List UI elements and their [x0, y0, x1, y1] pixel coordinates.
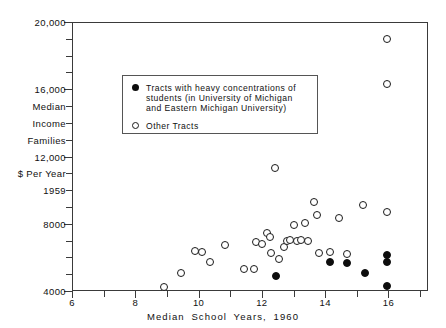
data-point-open	[221, 241, 229, 249]
data-point-filled	[343, 259, 351, 267]
x-axis-tick-label: 16	[368, 297, 408, 308]
data-point-open	[383, 35, 391, 43]
legend-line: students (in University of Michigan	[146, 93, 309, 103]
data-point-open	[290, 221, 298, 229]
plot-area	[72, 22, 428, 291]
data-point-filled	[383, 282, 391, 290]
y-axis-minor-tick	[66, 39, 72, 40]
data-point-open	[250, 265, 258, 273]
legend-entry-student-tracts: Tracts with heavy concentrations of stud…	[132, 83, 309, 114]
x-axis-tick-label: 14	[305, 297, 345, 308]
x-axis-tick-label: 6	[52, 297, 92, 308]
open-circle-icon	[132, 122, 139, 129]
legend-entry-label: Tracts with heavy concentrations of stud…	[146, 83, 309, 114]
legend-line: Tracts with heavy concentrations of	[146, 83, 309, 93]
x-axis-title: Median School Years, 1960	[0, 311, 446, 322]
y-axis-tick-label: 16,000	[0, 84, 66, 95]
y-axis-minor-tick	[66, 274, 72, 275]
data-point-open	[326, 248, 334, 256]
chart-legend: Tracts with heavy concentrations of stud…	[122, 75, 318, 134]
legend-line: and Eastern Michigan University)	[146, 103, 309, 113]
y-axis-title-word: Income	[0, 117, 66, 128]
legend-entry-other-tracts: Other Tracts	[132, 121, 309, 131]
y-axis-title-word: Median	[0, 101, 66, 112]
data-point-open	[258, 240, 266, 248]
y-axis-minor-tick	[66, 241, 72, 242]
data-point-open	[275, 255, 283, 263]
y-axis-minor-tick	[66, 140, 72, 141]
y-axis-minor-tick	[66, 123, 72, 124]
legend-line: Other Tracts	[146, 121, 309, 131]
y-axis-minor-tick	[66, 207, 72, 208]
y-axis-title-word: 1959	[0, 185, 66, 196]
data-point-filled	[272, 272, 280, 280]
data-point-filled	[361, 269, 369, 277]
y-axis-title-word: Families	[0, 134, 66, 145]
data-point-open	[266, 233, 274, 241]
x-axis-minor-tick	[420, 291, 421, 297]
y-axis-tick-label: 20,000	[0, 17, 66, 28]
data-point-filled	[383, 258, 391, 266]
data-point-open	[310, 198, 318, 206]
y-axis-title-word: $ Per Year	[0, 168, 66, 179]
y-axis-minor-tick	[66, 56, 72, 57]
data-point-filled	[326, 258, 334, 266]
data-point-open	[177, 269, 185, 277]
y-axis-tick-label: 4000	[0, 286, 66, 297]
chart-screenshot: 4000800012,00016,00020,000MedianIncomeFa…	[0, 0, 446, 328]
data-point-open	[160, 283, 168, 291]
data-point-open	[383, 80, 391, 88]
data-point-open	[359, 201, 367, 209]
data-point-open	[315, 249, 323, 257]
y-axis-minor-tick	[66, 106, 72, 107]
y-axis-tick-label: 12,000	[0, 151, 66, 162]
y-axis-tick-label: 8000	[0, 218, 66, 229]
x-axis-tick-label: 8	[115, 297, 155, 308]
y-axis-minor-tick	[66, 173, 72, 174]
x-axis-minor-tick	[167, 291, 168, 297]
data-point-open	[383, 208, 391, 216]
legend-entry-label: Other Tracts	[146, 121, 309, 131]
data-point-open	[206, 258, 214, 266]
y-axis-minor-tick	[66, 190, 72, 191]
data-point-open	[313, 211, 321, 219]
data-point-open	[240, 265, 248, 273]
data-point-open	[198, 248, 206, 256]
data-point-open	[343, 250, 351, 258]
filled-circle-icon	[132, 84, 139, 91]
y-axis-minor-tick	[66, 72, 72, 73]
x-axis-tick-label: 12	[242, 297, 282, 308]
data-point-open	[267, 249, 275, 257]
x-axis-minor-tick	[294, 291, 295, 297]
y-axis-minor-tick	[66, 257, 72, 258]
data-point-open	[335, 214, 343, 222]
x-axis-minor-tick	[230, 291, 231, 297]
x-axis-minor-tick	[104, 291, 105, 297]
data-point-open	[304, 237, 312, 245]
data-point-open	[301, 219, 309, 227]
data-point-open	[271, 164, 279, 172]
x-axis-minor-tick	[357, 291, 358, 297]
x-axis-tick-label: 10	[179, 297, 219, 308]
